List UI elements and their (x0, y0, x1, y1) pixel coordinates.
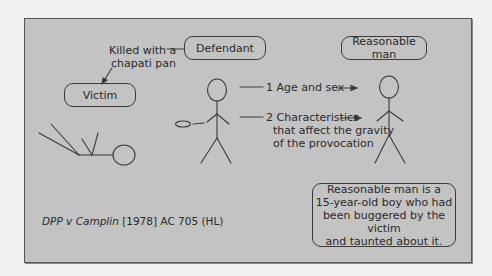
weapon-label-line1: Killed with a (109, 45, 176, 57)
defendant-figure-icon (176, 79, 232, 163)
case-reference: [1978] AC 705 (HL) (119, 215, 224, 227)
factor2-label-line3: of the provocation (273, 138, 374, 150)
victim-figure-icon (39, 124, 135, 165)
defendant-box: Defendant (184, 36, 266, 60)
conclusion-line-4: and taunted about it. (326, 235, 443, 248)
defendant-label: Defendant (196, 42, 254, 55)
conclusion-line-2: 15-year-old boy who had (316, 196, 453, 209)
factor2-label-line2: that affect the gravity (273, 125, 394, 137)
reasonable-man-box: Reasonable man (341, 36, 427, 60)
conclusion-line-3: been buggered by the victim (313, 209, 455, 235)
factor2-label-line1: 2 Characteristics (266, 112, 359, 124)
case-name: DPP v Camplin (42, 215, 119, 227)
conclusion-line-1: Reasonable man is a (327, 183, 441, 196)
reasonable-man-figure-icon (375, 76, 405, 163)
reasonable-man-label: Reasonable man (342, 35, 426, 61)
weapon-label-line2: chapati pan (111, 58, 176, 70)
victim-box: Victim (64, 83, 136, 107)
conclusion-box: Reasonable man is a 15-year-old boy who … (312, 183, 456, 247)
factor1-label: 1 Age and sex (266, 82, 344, 94)
victim-label: Victim (83, 89, 117, 102)
chapati-pan-icon (176, 121, 191, 127)
case-citation: DPP v Camplin [1978] AC 705 (HL) (42, 215, 223, 227)
